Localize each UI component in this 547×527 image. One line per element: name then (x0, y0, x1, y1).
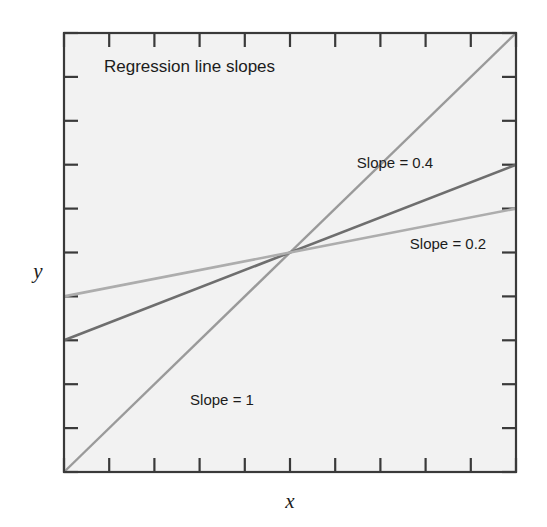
annotation-slope-0-4: Slope = 0.4 (357, 154, 433, 171)
regression-line-slopes-chart: Regression line slopes Slope = 0.4 Slope… (0, 0, 547, 527)
figure-container: Regression line slopes Slope = 0.4 Slope… (0, 0, 547, 527)
annotation-slope-1: Slope = 1 (190, 391, 254, 408)
x-axis-label: x (284, 489, 295, 513)
chart-title: Regression line slopes (104, 57, 275, 76)
annotation-slope-0-2: Slope = 0.2 (410, 235, 486, 252)
y-axis-label: y (31, 259, 43, 283)
